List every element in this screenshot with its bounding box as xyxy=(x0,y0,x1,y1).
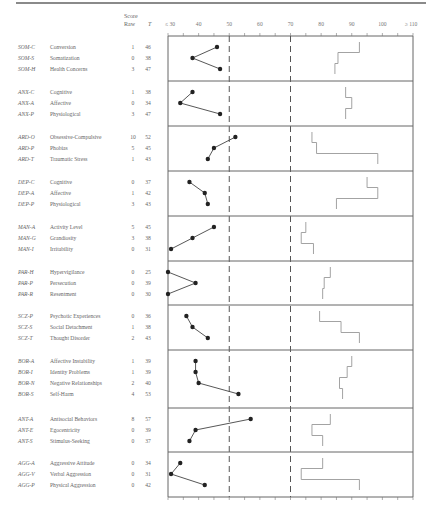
profile-point xyxy=(248,417,252,421)
profile-point xyxy=(187,439,191,443)
profile-point xyxy=(233,135,237,139)
profile-point xyxy=(190,325,194,329)
reference-step-line xyxy=(335,42,360,74)
reference-step-line xyxy=(312,132,378,164)
profile-line xyxy=(193,47,221,69)
profile-point xyxy=(203,483,207,487)
reference-step-line xyxy=(301,222,313,254)
profile-point xyxy=(215,45,219,49)
profile-line xyxy=(186,316,207,338)
profile-point xyxy=(169,247,173,251)
profile-line xyxy=(171,463,205,485)
profile-point xyxy=(178,101,182,105)
profile-point xyxy=(218,67,222,71)
profile-point xyxy=(166,292,170,296)
profile-point xyxy=(212,146,216,150)
profile-point xyxy=(193,359,197,363)
profile-line xyxy=(168,272,196,294)
reference-step-line xyxy=(323,267,331,299)
profile-point xyxy=(196,381,200,385)
profile-point xyxy=(212,225,216,229)
profile-chart xyxy=(0,0,434,515)
profile-point xyxy=(206,336,210,340)
profile-point xyxy=(190,90,194,94)
profile-point xyxy=(187,180,191,184)
profile-point xyxy=(203,191,207,195)
profile-point xyxy=(178,461,182,465)
reference-step-line xyxy=(340,356,352,399)
profile-point xyxy=(193,370,197,374)
reference-step-line xyxy=(312,414,330,446)
profile-point xyxy=(236,392,240,396)
profile-point xyxy=(190,56,194,60)
profile-point xyxy=(218,112,222,116)
reference-step-line xyxy=(301,458,359,490)
profile-point xyxy=(193,281,197,285)
profile-point xyxy=(193,428,197,432)
profile-point xyxy=(206,202,210,206)
reference-step-line xyxy=(320,311,360,343)
profile-point xyxy=(166,270,170,274)
profile-point xyxy=(184,314,188,318)
profile-point xyxy=(169,472,173,476)
profile-line xyxy=(196,361,239,394)
reference-step-line xyxy=(346,87,352,119)
profile-point xyxy=(190,236,194,240)
profile-line xyxy=(189,419,250,441)
profile-point xyxy=(206,157,210,161)
profile-line xyxy=(180,92,220,114)
reference-step-line xyxy=(336,177,377,209)
